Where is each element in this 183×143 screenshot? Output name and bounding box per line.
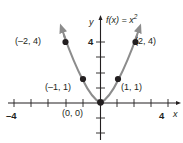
point-label-1-1: (1, 1) [121, 83, 142, 92]
x-tick-label-4: 4 [159, 111, 164, 121]
function-label-text: f(x) = x [106, 15, 134, 25]
point-label-0-0: (0, 0) [62, 109, 83, 118]
point-label-neg2-4: (–2, 4) [15, 37, 41, 46]
y-axis-label: y [89, 18, 94, 27]
point-label-neg1-1: (–1, 1) [45, 83, 71, 92]
x-tick-label-neg4: –4 [6, 111, 17, 121]
function-label: f(x) = x2 [106, 14, 137, 25]
x-axis-label: x [173, 110, 178, 119]
parabola-figure: f(x) = x2 y x 4 –4 4 (–2, 4) (–1, 1) (0,… [0, 0, 183, 143]
point-neg2-4 [62, 39, 68, 45]
function-label-exponent: 2 [134, 13, 138, 20]
point-label-2-4: (2, 4) [135, 37, 156, 46]
point-neg1-1 [80, 76, 86, 82]
y-tick-label-4: 4 [88, 37, 93, 47]
point-0-0 [97, 99, 104, 106]
